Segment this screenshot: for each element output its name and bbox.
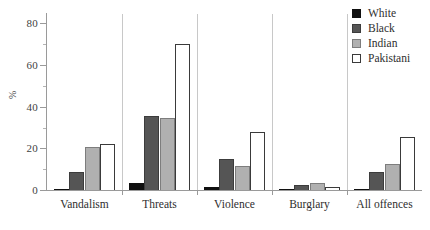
- bar: [100, 144, 115, 191]
- legend-swatch-icon: [352, 54, 361, 63]
- bar: [369, 172, 384, 191]
- legend-swatch-icon: [352, 24, 361, 33]
- x-group-label: Threats: [122, 198, 197, 211]
- x-group-label: Violence: [197, 198, 272, 211]
- bar: [400, 137, 415, 191]
- legend: WhiteBlackIndianPakistani: [352, 6, 410, 66]
- y-tick-label: 80: [0, 18, 38, 29]
- bar: [144, 116, 159, 191]
- x-separator-tick: [347, 191, 348, 195]
- bar: [219, 159, 234, 191]
- bar: [250, 132, 265, 191]
- legend-item: Black: [352, 21, 410, 35]
- x-group-label: Burglary: [272, 198, 347, 211]
- legend-label: White: [368, 7, 396, 19]
- bar: [85, 147, 100, 191]
- bar: [175, 44, 190, 191]
- x-separator-tick: [272, 191, 273, 195]
- x-axis-line: [46, 190, 422, 191]
- x-separator-tick: [122, 191, 123, 195]
- legend-item: White: [352, 6, 410, 20]
- y-tick-minor: [43, 169, 46, 170]
- group-separator: [197, 14, 198, 191]
- bar-chart: % 020406080 VandalismThreatsViolenceBurg…: [0, 0, 430, 230]
- y-axis-line: [46, 13, 47, 191]
- y-tick-label: 0: [0, 185, 38, 196]
- y-tick-minor: [43, 128, 46, 129]
- legend-label: Indian: [368, 37, 397, 49]
- y-tick-minor: [43, 44, 46, 45]
- y-tick-major: [40, 148, 46, 149]
- y-tick-label: 40: [0, 102, 38, 113]
- y-tick-major: [40, 107, 46, 108]
- legend-label: Pakistani: [368, 52, 410, 64]
- x-group-label: All offences: [347, 198, 422, 211]
- y-tick-major: [40, 23, 46, 24]
- y-axis-title: %: [8, 91, 18, 99]
- legend-item: Indian: [352, 36, 410, 50]
- group-separator: [347, 14, 348, 191]
- group-separator: [122, 14, 123, 191]
- x-separator-tick: [197, 191, 198, 195]
- legend-item: Pakistani: [352, 51, 410, 65]
- legend-swatch-icon: [352, 39, 361, 48]
- bar: [385, 164, 400, 191]
- legend-swatch-icon: [352, 9, 361, 18]
- x-group-label: Vandalism: [47, 198, 122, 211]
- bar: [69, 172, 84, 191]
- y-tick-label: 60: [0, 60, 38, 71]
- bar: [160, 118, 175, 191]
- y-tick-minor: [43, 86, 46, 87]
- y-tick-major: [40, 65, 46, 66]
- bar: [235, 166, 250, 191]
- legend-label: Black: [368, 22, 395, 34]
- group-separator: [272, 14, 273, 191]
- y-tick-label: 20: [0, 143, 38, 154]
